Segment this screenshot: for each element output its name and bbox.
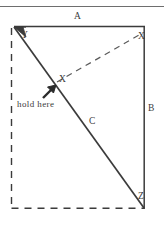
label-edge-a: A [74,12,81,22]
fold-line-dashed [57,35,139,82]
label-fold-c: C [89,117,95,127]
label-corner-x: X [138,32,145,42]
label-corner-y: Y [21,31,28,41]
fold-line-diagonal-solid [14,27,144,208]
label-corner-z: Z [138,192,144,202]
arrow-up-right-icon [43,85,56,98]
label-edge-b: B [148,104,154,114]
label-point-x-inner: X [59,75,66,85]
label-hold-here: hold here [17,100,54,109]
fold-diagram: A B C Y X X Z hold here [0,0,164,227]
